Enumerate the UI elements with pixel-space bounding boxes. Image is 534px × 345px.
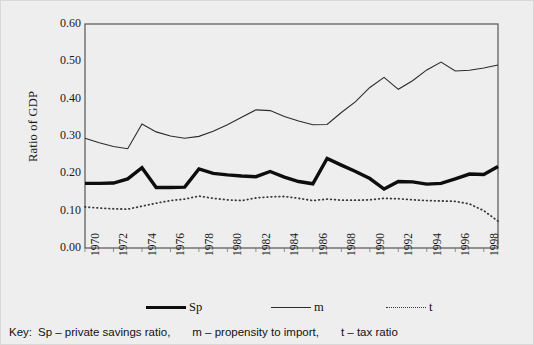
x-tick-label: 1974 xyxy=(147,233,159,256)
x-tick-label: 1978 xyxy=(204,233,216,256)
x-axis-ticks xyxy=(85,248,484,252)
chart-legend: Sp m t xyxy=(1,300,534,320)
figure-container: Ratio of GDP 0.000.100.200.300.400.500.6… xyxy=(0,0,534,345)
x-tick-label: 1996 xyxy=(460,233,472,256)
x-tick-label: 1984 xyxy=(289,233,301,256)
legend-label-sp: Sp xyxy=(189,300,202,315)
x-tick-label: 1986 xyxy=(318,233,330,256)
x-tick-label: 1990 xyxy=(375,233,387,256)
x-tick-label: 1992 xyxy=(403,233,415,256)
legend-label-t: t xyxy=(429,300,432,315)
x-tick-label: 1994 xyxy=(432,233,444,256)
legend-item-sp: Sp xyxy=(146,300,202,315)
key-entry-t: t – tax ratio xyxy=(341,326,398,338)
legend-item-m: m xyxy=(271,300,324,315)
x-tick-label: 1988 xyxy=(346,233,358,256)
x-tick-label: 1976 xyxy=(175,233,187,256)
key-prefix: Key: xyxy=(9,326,32,338)
key-entry-sp: Sp – private savings ratio, xyxy=(38,326,170,338)
x-tick-label: 1970 xyxy=(90,233,102,256)
legend-swatch-sp-icon xyxy=(146,306,186,309)
x-tick-label: 1982 xyxy=(261,233,273,256)
legend-item-t: t xyxy=(386,300,432,315)
legend-label-m: m xyxy=(314,300,324,315)
x-tick-label: 1980 xyxy=(232,233,244,256)
x-tick-label: 1972 xyxy=(118,233,130,256)
chart-plot xyxy=(1,1,534,345)
x-tick-label: 1998 xyxy=(489,233,501,256)
legend-swatch-m-icon xyxy=(271,307,311,308)
key-entry-m: m – propensity to import, xyxy=(192,326,319,338)
key-caption: Key:Sp – private savings ratio,m – prope… xyxy=(9,326,398,338)
legend-swatch-t-icon xyxy=(386,307,426,308)
